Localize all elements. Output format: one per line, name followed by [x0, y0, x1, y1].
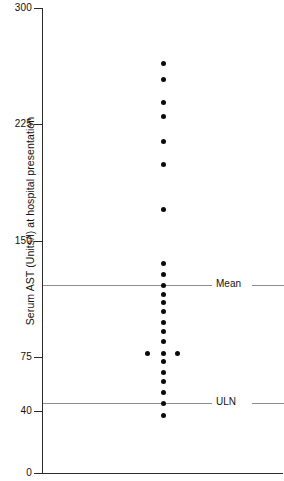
data-point	[161, 300, 166, 305]
y-tick-label-wrap: 300	[0, 3, 32, 13]
y-tick-mark	[34, 411, 43, 412]
y-tick-mark	[34, 241, 43, 242]
y-tick-mark	[34, 473, 43, 474]
y-tick-label: 75	[0, 352, 32, 362]
data-point	[161, 100, 166, 105]
y-tick-label-wrap: 150	[0, 236, 32, 246]
data-point	[161, 292, 166, 297]
y-tick-mark	[34, 8, 43, 9]
data-point	[161, 162, 166, 167]
data-point	[161, 320, 166, 325]
data-point	[161, 139, 166, 144]
y-tick-label: 150	[0, 236, 32, 246]
x-axis-line	[42, 473, 283, 474]
reference-line-segment-left	[43, 403, 212, 404]
reference-line-segment-right	[252, 403, 284, 404]
y-tick-mark	[34, 124, 43, 125]
data-point	[161, 61, 166, 66]
data-point	[161, 390, 166, 395]
data-point	[145, 351, 150, 356]
y-tick-label-wrap: 40	[0, 406, 32, 416]
data-point	[161, 261, 166, 266]
data-point	[161, 329, 166, 334]
y-tick-mark	[34, 357, 43, 358]
y-tick-label: 40	[0, 406, 32, 416]
data-point	[161, 359, 166, 364]
reference-line-segment-left	[43, 285, 212, 286]
data-point	[161, 351, 166, 356]
y-tick-label: 225	[0, 119, 32, 129]
y-tick-label-wrap: 75	[0, 352, 32, 362]
data-point	[161, 370, 166, 375]
data-point	[161, 77, 166, 82]
y-axis-title: Serum AST (Units/l) at hospital presenta…	[24, 91, 36, 351]
y-tick-label-wrap: 0	[0, 468, 32, 478]
y-tick-label-wrap: 225	[0, 119, 32, 129]
reference-line-label: ULN	[216, 397, 236, 407]
chart-container: Serum AST (Units/l) at hospital presenta…	[0, 0, 284, 481]
reference-line-label: Mean	[216, 279, 241, 289]
data-point	[161, 207, 166, 212]
data-point	[161, 114, 166, 119]
y-tick-label: 0	[0, 468, 32, 478]
data-point	[175, 351, 180, 356]
data-point	[161, 272, 166, 277]
data-point	[161, 309, 166, 314]
data-point	[161, 413, 166, 418]
data-point	[161, 339, 166, 344]
y-tick-label: 300	[0, 3, 32, 13]
reference-line-segment-right	[252, 285, 284, 286]
data-point	[161, 379, 166, 384]
